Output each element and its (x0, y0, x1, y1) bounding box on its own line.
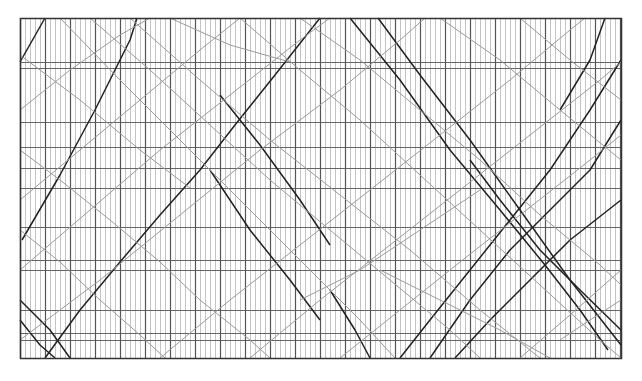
train-path-primary (350, 18, 608, 350)
train-path-primary (45, 18, 320, 358)
timetable-diagram (0, 0, 642, 381)
train-path-primary (210, 170, 320, 320)
train-path-primary (22, 18, 137, 240)
train-path-secondary (160, 18, 585, 358)
train-path-primary (20, 18, 45, 62)
train-path-secondary (90, 18, 480, 358)
train-path-secondary (130, 18, 540, 358)
train-path-secondary (170, 18, 290, 62)
train-path-primary (220, 95, 330, 245)
train-path-primary (378, 18, 621, 345)
train-path-secondary (20, 18, 240, 200)
